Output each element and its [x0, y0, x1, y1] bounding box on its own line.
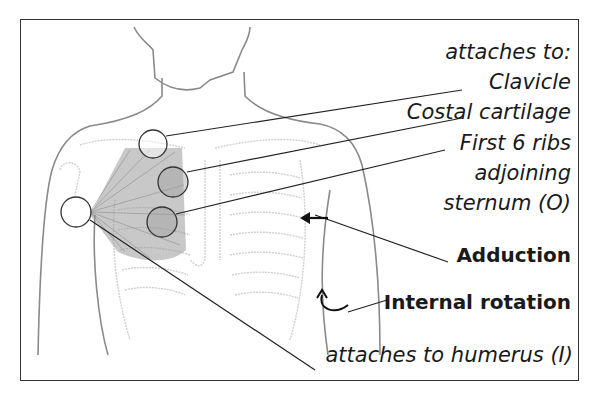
body-outline	[38, 27, 380, 355]
clavicle-attachment-circle	[139, 130, 167, 158]
humerus-attachment-circle	[61, 197, 91, 227]
adduction-arrow-icon	[300, 212, 328, 224]
costal-cartilage-label: Costal cartilage	[407, 102, 571, 123]
internal-rotation-label: Internal rotation	[384, 292, 571, 312]
adjoining-label: adjoining	[475, 163, 572, 184]
adduction-label: Adduction	[456, 245, 571, 265]
pectoralis-muscle	[90, 148, 186, 260]
clavicle-label: Clavicle	[489, 72, 571, 93]
first-six-ribs-label: First 6 ribs	[460, 133, 571, 154]
humerus-insertion-label: attaches to humerus (I)	[326, 345, 574, 366]
sternum-label: sternum (O)	[444, 193, 571, 214]
costal-cartilage-attachment-circle	[158, 167, 188, 197]
origin-header-label: attaches to:	[445, 42, 571, 63]
ribs-attachment-circle	[147, 207, 177, 237]
